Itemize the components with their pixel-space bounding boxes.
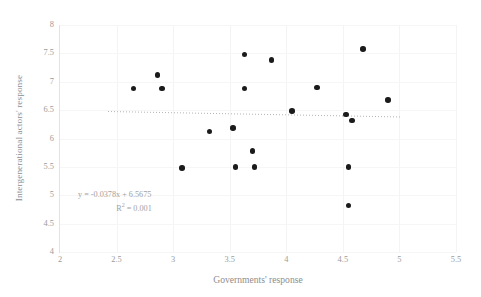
regression-equation-text: y = -0.0378x + 6.5675 [76, 189, 200, 200]
plot-area [60, 25, 456, 252]
gridline-horizontal [60, 139, 456, 140]
data-point [314, 85, 320, 91]
data-point [179, 165, 185, 171]
data-point [242, 52, 248, 58]
gridline-horizontal [60, 53, 456, 54]
data-point [131, 86, 137, 92]
scatter-chart: Intergenerational actors' response 87.57… [0, 0, 481, 297]
data-point [250, 148, 256, 154]
x-tick-label: 4.5 [325, 255, 361, 265]
data-point [289, 108, 295, 114]
data-point [360, 46, 366, 52]
x-tick-label: 4 [268, 255, 304, 265]
data-point [269, 57, 275, 63]
y-tick-label: 4.5 [20, 219, 54, 229]
data-point [346, 203, 352, 209]
gridline-horizontal [60, 252, 456, 253]
y-tick-label: 6 [20, 134, 54, 144]
trendline [107, 111, 401, 118]
x-tick-label: 2 [42, 255, 78, 265]
data-point [252, 164, 258, 170]
y-tick-label: 5.5 [20, 162, 54, 172]
x-axis-title: Governments' response [60, 274, 456, 285]
x-tick-label: 2.5 [99, 255, 135, 265]
gridline-horizontal [60, 224, 456, 225]
data-point [230, 125, 236, 131]
data-point [233, 164, 239, 170]
data-point [155, 72, 161, 78]
y-tick-label: 6.5 [20, 105, 54, 115]
y-tick-label: 7.5 [20, 48, 54, 58]
regression-annotation: y = -0.0378x + 6.5675 R2 = 0.001 [76, 189, 200, 214]
gridline-vertical [456, 25, 457, 252]
y-tick-label: 8 [20, 20, 54, 30]
gridline-horizontal [60, 82, 456, 83]
x-tick-label: 5.5 [438, 255, 474, 265]
data-point [349, 118, 355, 124]
r-squared-text: R2 = 0.001 [76, 200, 200, 214]
data-point [385, 97, 391, 103]
data-point [207, 129, 213, 135]
gridline-horizontal [60, 25, 456, 26]
r-squared-value: = 0.001 [125, 204, 152, 213]
data-point [242, 86, 248, 92]
y-tick-label: 7 [20, 77, 54, 87]
x-tick-label: 5 [381, 255, 417, 265]
gridline-horizontal [60, 167, 456, 168]
data-point [159, 86, 165, 92]
x-tick-label: 3 [155, 255, 191, 265]
data-point [346, 164, 352, 170]
data-point [343, 112, 349, 118]
x-tick-label: 3.5 [212, 255, 248, 265]
y-tick-label: 5 [20, 190, 54, 200]
